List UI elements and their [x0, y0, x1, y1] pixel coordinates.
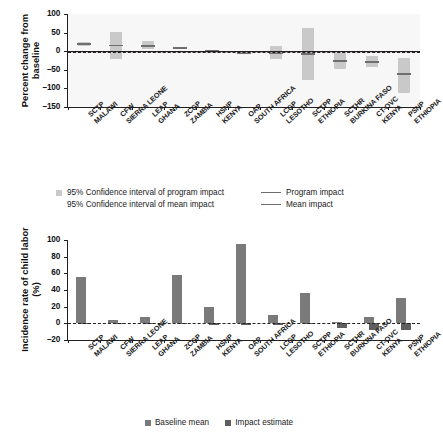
legend-label-ci-mean-impact: 95% Confidence interval of mean impact [67, 200, 214, 209]
y-tick-label-panel-a: –150 [26, 102, 60, 111]
legend-panel-b: Baseline mean Impact estimate [0, 418, 438, 427]
y-tick-mark [64, 307, 67, 308]
legend-item-ci-program-impact: 95% Confidence interval of program impac… [56, 188, 224, 197]
bar-baseline-mean [396, 298, 406, 323]
y-tick-mark [64, 107, 67, 108]
legend-swatch-impact-icon [225, 420, 231, 426]
y-tick-label-panel-a: 0 [26, 46, 60, 55]
program-impact-line [141, 45, 155, 47]
legend-line-icon [261, 192, 281, 194]
program-impact-line [77, 43, 91, 45]
panel-incidence-rate-child-labor: Incidence rate of child labor (%) 100806… [0, 228, 438, 413]
program-impact-line [397, 73, 411, 75]
legend-item-baseline-mean: Baseline mean [145, 418, 209, 427]
y-tick-label-panel-b: 0 [26, 318, 60, 327]
confidence-interval-band [398, 58, 410, 93]
y-tick-label-panel-b: –20 [26, 335, 60, 344]
legend-item-impact-estimate: Impact estimate [225, 418, 293, 427]
legend-swatch-blank-icon [56, 202, 62, 208]
y-tick-label-panel-a: 50 [26, 28, 60, 37]
legend-item-program-impact: Program impact [261, 188, 344, 197]
y-tick-mark [64, 88, 67, 89]
y-tick-mark [64, 323, 67, 324]
program-impact-line [333, 60, 347, 62]
y-tick-label-panel-a: –100 [26, 83, 60, 92]
legend-item-mean-impact: Mean impact [261, 200, 333, 209]
legend-label-baseline-mean: Baseline mean [155, 418, 209, 427]
y-tick-mark [64, 290, 67, 291]
y-tick-label-panel-b: 100 [26, 235, 60, 244]
legend-line-icon-mean [261, 204, 281, 206]
y-tick-label-panel-b: 60 [26, 268, 60, 277]
y-tick-label-panel-b: 20 [26, 302, 60, 311]
bar-baseline-mean [300, 293, 310, 324]
legend-label-mean-impact: Mean impact [286, 200, 333, 209]
legend-label-ci-program-impact: 95% Confidence interval of program impac… [67, 188, 224, 197]
y-tick-label-panel-b: 80 [26, 252, 60, 261]
y-tick-label-panel-b: 40 [26, 285, 60, 294]
legend-label-program-impact: Program impact [286, 188, 344, 197]
y-tick-mark [64, 240, 67, 241]
legend-swatch-icon [56, 190, 62, 196]
program-impact-line [173, 47, 187, 49]
program-impact-line [365, 61, 379, 63]
bar-baseline-mean [76, 277, 86, 324]
y-tick-mark [64, 257, 67, 258]
y-tick-label-panel-a: 100 [26, 9, 60, 18]
legend-item-ci-mean-impact: 95% Confidence interval of mean impact [56, 200, 214, 209]
program-impact-line [109, 45, 123, 47]
y-tick-mark [64, 33, 67, 34]
legend-panel-a: 95% Confidence interval of program impac… [0, 188, 438, 218]
panel-percent-change-from-baseline: Percent change from baseline 100500–50–1… [0, 0, 438, 180]
bar-baseline-mean [172, 275, 182, 323]
bar-baseline-mean [204, 307, 214, 324]
x-tick-mark [68, 107, 69, 110]
zero-reference-line [68, 52, 420, 53]
legend-label-impact-estimate: Impact estimate [235, 418, 293, 427]
bar-baseline-mean [236, 244, 246, 323]
y-tick-mark [64, 14, 67, 15]
y-tick-mark [64, 70, 67, 71]
legend-swatch-baseline-icon [145, 420, 151, 426]
x-tick-mark [68, 340, 69, 343]
y-tick-mark [64, 51, 67, 52]
y-tick-label-panel-a: –50 [26, 65, 60, 74]
y-tick-mark [64, 340, 67, 341]
y-tick-mark [64, 273, 67, 274]
